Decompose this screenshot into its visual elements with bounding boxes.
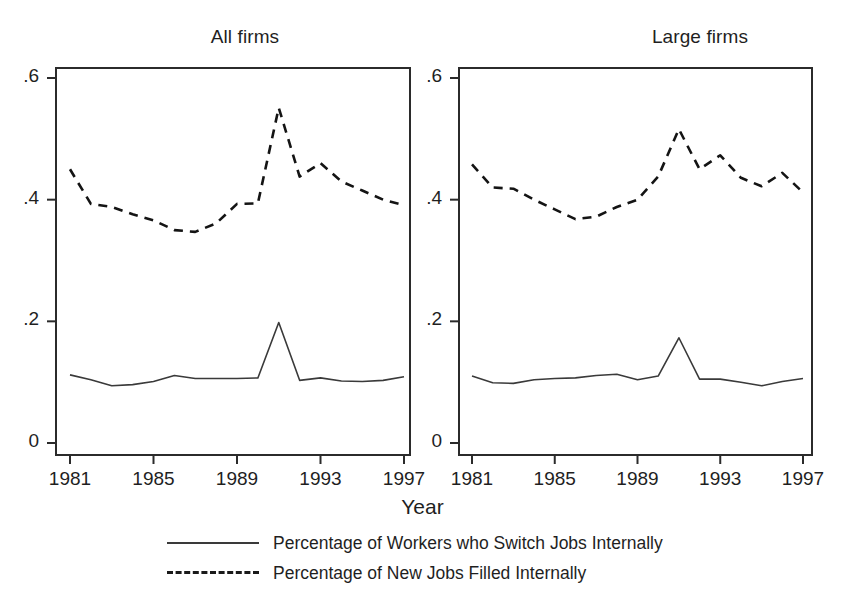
- x-axis-tick-label: 1997: [763, 468, 843, 490]
- y-axis-tick-label: .2: [0, 308, 39, 330]
- legend-label-solid: Percentage of Workers who Switch Jobs In…: [273, 533, 663, 554]
- x-axis-tick-label: 1989: [598, 468, 678, 490]
- legend-item-solid: Percentage of Workers who Switch Jobs In…: [0, 528, 845, 558]
- plot-area: [0, 0, 845, 612]
- y-axis-tick-label: .4: [384, 187, 442, 209]
- x-axis-title: Year: [0, 495, 845, 519]
- x-axis-tick-label: 1993: [281, 468, 361, 490]
- legend-item-dashed: Percentage of New Jobs Filled Internally: [0, 558, 845, 588]
- y-axis-tick-label: .6: [384, 65, 442, 87]
- series-line-dashed: [70, 108, 404, 232]
- x-axis-tick-label: 1989: [197, 468, 277, 490]
- y-axis-tick-label: 0: [384, 430, 442, 452]
- y-axis-tick-label: 0: [0, 430, 39, 452]
- chart-canvas: All firms Large firms 0.2.4.6 0.2.4.6 19…: [0, 0, 845, 612]
- plot-frame: [56, 68, 410, 455]
- x-axis-tick-label: 1985: [114, 468, 194, 490]
- x-axis-tick-label: 1981: [432, 468, 512, 490]
- plot-frame: [459, 68, 812, 455]
- x-axis-tick-label: 1993: [680, 468, 760, 490]
- legend-key-dashed-line-icon: [167, 566, 259, 580]
- y-axis-tick-label: .4: [0, 187, 39, 209]
- series-line-solid: [70, 323, 404, 386]
- chart-legend: Percentage of Workers who Switch Jobs In…: [0, 528, 845, 588]
- series-line-dashed: [472, 129, 803, 219]
- y-axis-tick-label: .2: [384, 308, 442, 330]
- legend-label-dashed: Percentage of New Jobs Filled Internally: [273, 563, 586, 584]
- series-line-solid: [472, 338, 803, 386]
- x-axis-tick-label: 1981: [30, 468, 110, 490]
- legend-key-solid-line-icon: [167, 536, 259, 550]
- x-axis-tick-label: 1985: [515, 468, 595, 490]
- y-axis-tick-label: .6: [0, 65, 39, 87]
